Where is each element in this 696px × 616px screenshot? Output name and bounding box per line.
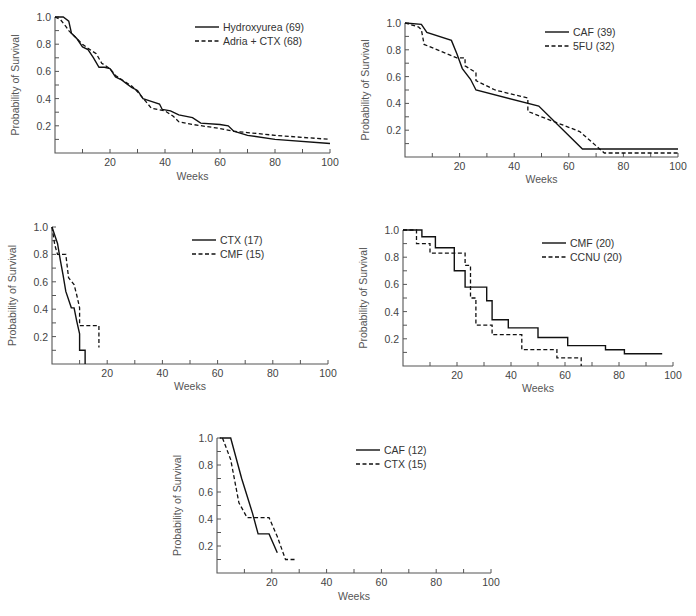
y-tick-label: 1.0 [33, 221, 48, 233]
y-tick-label: 0.8 [386, 44, 401, 56]
y-tick-label: 0.4 [198, 513, 213, 525]
x-axis-label: Weeks [174, 380, 206, 392]
x-tick-label: 80 [613, 369, 625, 381]
series-line-solid [220, 438, 278, 553]
series-line-solid [403, 230, 662, 354]
legend: Hydroxyurea (69)Adria + CTX (68) [195, 21, 304, 47]
y-axis-label: Probability of Survival [357, 248, 369, 349]
y-tick-label: 0.4 [384, 306, 399, 318]
x-tick-label: 100 [321, 156, 339, 168]
x-axis-label: Weeks [526, 173, 558, 185]
y-tick-label: 1.0 [384, 224, 399, 236]
legend: CAF (39)5FU (32) [545, 26, 616, 52]
x-tick-label: 100 [664, 369, 682, 381]
x-tick-label: 100 [482, 576, 500, 588]
x-axis-label: Weeks [522, 382, 554, 394]
y-tick-label: 0.2 [36, 120, 51, 132]
x-tick-label: 100 [669, 160, 687, 172]
y-axis-label: Probability of Survival [171, 455, 183, 556]
x-axis-label: Weeks [338, 590, 370, 602]
legend-entry-label: CMF (15) [220, 248, 264, 260]
legend-entry-label: Hydroxyurea (69) [223, 21, 304, 33]
legend-entry-label: CCNU (20) [570, 251, 622, 263]
x-tick-label: 80 [618, 160, 630, 172]
x-tick-label: 80 [267, 367, 279, 379]
y-tick-label: 0.8 [384, 251, 399, 263]
chart-panel-top-left: 204060801000.20.40.60.81.0Probability of… [9, 11, 339, 182]
x-tick-label: 60 [212, 367, 224, 379]
series-line-dashed [52, 227, 99, 348]
legend: CTX (17)CMF (15) [192, 234, 264, 260]
chart-panel-bottom-center: 204060801000.20.40.60.81.0Probability of… [171, 432, 500, 602]
y-axis-label: Probability of Survival [359, 40, 371, 141]
x-tick-label: 20 [101, 367, 113, 379]
y-axis-label: Probability of Survival [9, 35, 21, 136]
series-line-solid [52, 227, 85, 364]
legend-entry-label: CAF (12) [384, 444, 427, 456]
axis-lines [217, 438, 491, 573]
x-axis-label: Weeks [177, 170, 209, 182]
x-tick-label: 80 [269, 156, 281, 168]
chart-panel-middle-left: 204060801000.20.40.60.81.0Probability of… [6, 221, 337, 392]
x-tick-label: 20 [266, 576, 278, 588]
x-tick-label: 20 [104, 156, 116, 168]
y-tick-label: 0.4 [386, 97, 401, 109]
y-tick-label: 0.2 [33, 331, 48, 343]
y-tick-label: 1.0 [386, 17, 401, 29]
series-line-solid [405, 23, 678, 149]
x-tick-label: 80 [430, 576, 442, 588]
legend-entry-label: CTX (17) [220, 234, 263, 246]
y-tick-label: 0.2 [386, 124, 401, 136]
y-tick-label: 1.0 [36, 11, 51, 23]
legend-entry-label: Adria + CTX (68) [223, 35, 302, 47]
chart-panel-top-right: 204060801000.20.40.60.81.0Probability of… [359, 17, 687, 185]
x-tick-label: 40 [505, 369, 517, 381]
x-tick-label: 100 [319, 367, 337, 379]
legend-entry-label: CTX (15) [384, 458, 427, 470]
y-tick-label: 0.2 [198, 540, 213, 552]
y-tick-label: 1.0 [198, 432, 213, 444]
y-tick-label: 0.6 [198, 486, 213, 498]
y-tick-label: 0.4 [33, 303, 48, 315]
axis-lines [405, 23, 678, 157]
x-tick-label: 40 [321, 576, 333, 588]
y-tick-label: 0.8 [33, 248, 48, 260]
x-tick-label: 60 [559, 369, 571, 381]
x-tick-label: 20 [454, 160, 466, 172]
series-line-dashed [405, 23, 678, 153]
survival-curves-figure: 204060801000.20.40.60.81.0Probability of… [0, 0, 696, 616]
legend: CMF (20)CCNU (20) [542, 237, 622, 263]
y-axis-label: Probability of Survival [6, 245, 18, 346]
x-tick-label: 40 [157, 367, 169, 379]
legend-entry-label: CAF (39) [573, 26, 616, 38]
legend: CAF (12)CTX (15) [356, 444, 427, 470]
x-tick-label: 40 [159, 156, 171, 168]
y-tick-label: 0.8 [36, 38, 51, 50]
x-tick-label: 60 [563, 160, 575, 172]
axis-lines [403, 230, 673, 366]
x-tick-label: 40 [508, 160, 520, 172]
chart-panel-middle-right: 204060801000.20.40.60.81.0Probability of… [357, 224, 682, 394]
y-tick-label: 0.2 [384, 333, 399, 345]
y-tick-label: 0.6 [384, 278, 399, 290]
y-tick-label: 0.8 [198, 459, 213, 471]
y-tick-label: 0.6 [386, 71, 401, 83]
x-tick-label: 20 [451, 369, 463, 381]
series-line-dashed [403, 230, 581, 366]
y-tick-label: 0.6 [33, 276, 48, 288]
series-line-dashed [222, 438, 296, 560]
x-tick-label: 60 [376, 576, 388, 588]
y-tick-label: 0.4 [36, 93, 51, 105]
x-tick-label: 60 [214, 156, 226, 168]
y-tick-label: 0.6 [36, 65, 51, 77]
axis-lines [52, 227, 328, 364]
legend-entry-label: 5FU (32) [573, 40, 614, 52]
legend-entry-label: CMF (20) [570, 237, 614, 249]
